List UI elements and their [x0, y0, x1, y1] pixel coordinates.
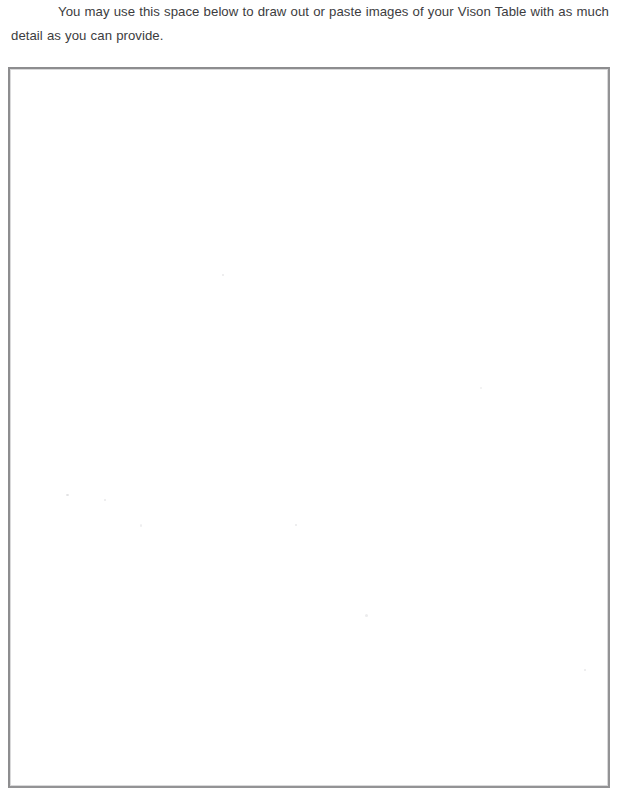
worksheet-page: You may use this space below to draw out…	[0, 0, 625, 800]
drawing-canvas[interactable]	[10, 69, 608, 786]
instruction-block: You may use this space below to draw out…	[11, 0, 614, 48]
instruction-paragraph: You may use this space below to draw out…	[11, 0, 614, 48]
vison-table-drawing-area[interactable]	[8, 67, 610, 788]
